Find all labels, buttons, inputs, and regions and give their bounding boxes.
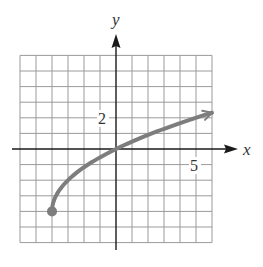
x-tick-label: 5 bbox=[190, 157, 198, 174]
y-axis-label: y bbox=[110, 10, 120, 29]
start-point-dot bbox=[47, 206, 57, 216]
axes bbox=[12, 34, 238, 250]
y-axis-arrow-icon bbox=[112, 34, 121, 48]
x-axis-arrow-icon bbox=[224, 145, 238, 154]
x-axis-label: x bbox=[242, 140, 251, 159]
function-graph: x y 2 5 bbox=[0, 0, 263, 267]
y-tick-label: 2 bbox=[98, 110, 106, 127]
